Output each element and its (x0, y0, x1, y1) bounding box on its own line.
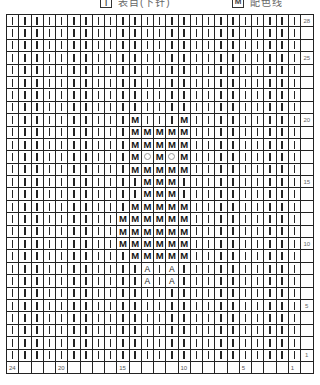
knit-stitch-icon (240, 350, 252, 362)
knit-stitch-icon (203, 114, 215, 126)
knit-stitch-icon (240, 164, 252, 176)
knit-stitch-icon (228, 151, 240, 163)
knit-stitch-icon (203, 15, 215, 27)
knit-stitch-icon (166, 77, 178, 89)
contrast-stitch-icon: M (154, 250, 166, 262)
contrast-stitch-icon: M (179, 151, 191, 163)
knit-stitch-icon (191, 27, 203, 39)
knit-stitch-icon (240, 250, 252, 262)
knit-stitch-icon (215, 40, 227, 52)
knit-stitch-icon (277, 325, 289, 337)
knit-stitch-icon (44, 52, 56, 64)
knit-stitch-icon (7, 201, 19, 213)
knit-stitch-icon (179, 15, 191, 27)
knit-stitch-icon (117, 15, 129, 27)
knit-stitch-icon (68, 226, 80, 238)
knit-stitch-icon (179, 288, 191, 300)
knit-stitch-icon (142, 350, 154, 362)
knit-stitch-icon (252, 275, 264, 287)
row-number: 5 (301, 300, 314, 312)
knit-stitch-icon (7, 312, 19, 324)
knit-stitch-icon (264, 238, 276, 250)
knit-stitch-icon (215, 15, 227, 27)
chart-legend: | 表目(下针) M 配色线 (0, 0, 320, 6)
knit-stitch-icon (215, 238, 227, 250)
knit-stitch-icon (289, 188, 301, 200)
row-number (301, 139, 314, 151)
contrast-stitch-icon: M (130, 201, 142, 213)
knit-stitch-icon (203, 201, 215, 213)
knit-stitch-icon (68, 300, 80, 312)
knit-stitch-icon (32, 288, 44, 300)
knit-stitch-icon (228, 312, 240, 324)
knit-stitch-icon (56, 15, 68, 27)
contrast-stitch-icon: M (179, 201, 191, 213)
column-number (277, 362, 289, 374)
knit-stitch-icon (228, 89, 240, 101)
column-number-row: 2420151051 (7, 362, 314, 374)
knit-stitch-icon (142, 27, 154, 39)
contrast-stitch-icon: M (179, 226, 191, 238)
contrast-stitch-icon: M (142, 226, 154, 238)
knit-stitch-icon (252, 238, 264, 250)
knit-stitch-icon (105, 312, 117, 324)
knit-stitch-icon (44, 164, 56, 176)
knit-stitch-icon (289, 201, 301, 213)
column-number (215, 362, 227, 374)
knit-stitch-icon (264, 164, 276, 176)
knit-stitch-icon (93, 250, 105, 262)
knit-stitch-icon (32, 188, 44, 200)
contrast-stitch-icon: M (142, 127, 154, 139)
knit-stitch-icon (19, 40, 31, 52)
knit-stitch-icon (117, 52, 129, 64)
knit-stitch-icon (130, 176, 142, 188)
knit-stitch-icon (215, 151, 227, 163)
knit-stitch-icon (240, 102, 252, 114)
knit-stitch-icon (81, 65, 93, 77)
knit-stitch-icon (19, 250, 31, 262)
knit-stitch-icon (93, 102, 105, 114)
knit-stitch-icon (277, 151, 289, 163)
knit-stitch-icon (93, 188, 105, 200)
knit-stitch-icon (240, 127, 252, 139)
knit-stitch-icon (117, 312, 129, 324)
knit-stitch-icon (19, 325, 31, 337)
knit-stitch-icon (32, 337, 44, 349)
chart-row: MMMMM (7, 164, 314, 176)
knit-stitch-icon (289, 89, 301, 101)
a-stitch-icon: A (142, 263, 154, 275)
knit-stitch-icon (215, 325, 227, 337)
knit-stitch-icon (240, 40, 252, 52)
knit-stitch-icon (215, 52, 227, 64)
knit-stitch-icon (117, 263, 129, 275)
knit-stitch-icon (93, 164, 105, 176)
contrast-stitch-icon: M (166, 139, 178, 151)
knit-stitch-icon (19, 77, 31, 89)
knit-stitch-icon (252, 263, 264, 275)
knit-stitch-icon (228, 275, 240, 287)
column-number (252, 362, 264, 374)
knit-stitch-icon (93, 325, 105, 337)
column-number (166, 362, 178, 374)
chart-row: 25 (7, 52, 314, 64)
knit-stitch-icon (289, 114, 301, 126)
knit-stitch-icon (166, 89, 178, 101)
knit-stitch-icon (130, 325, 142, 337)
row-number (301, 65, 314, 77)
knit-stitch-icon (56, 188, 68, 200)
knit-stitch-icon (68, 40, 80, 52)
knit-stitch-icon (252, 325, 264, 337)
knit-stitch-icon (203, 89, 215, 101)
knit-stitch-icon (19, 300, 31, 312)
knit-stitch-icon (44, 114, 56, 126)
knit-stitch-icon (105, 77, 117, 89)
knit-stitch-icon (289, 15, 301, 27)
a-stitch-icon: A (166, 275, 178, 287)
knit-stitch-icon (105, 65, 117, 77)
contrast-stitch-icon: M (142, 238, 154, 250)
knit-stitch-icon (19, 139, 31, 151)
knit-stitch-icon (56, 65, 68, 77)
knit-stitch-icon (191, 40, 203, 52)
knit-stitch-icon (277, 288, 289, 300)
chart-row (7, 312, 314, 324)
